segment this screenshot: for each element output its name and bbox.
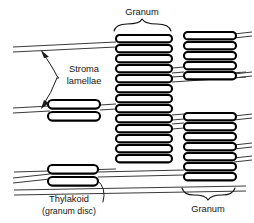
thylakoid-disc: [116, 35, 172, 42]
lamella-center-bottomright: [172, 114, 184, 120]
lamella-center-bottomright-2: [172, 123, 184, 129]
bottom-left-granum: [48, 165, 98, 186]
thylakoid-label-line2: (granum disc): [42, 206, 96, 216]
thylakoid-disc: [116, 65, 172, 72]
lamella-center-topright: [172, 67, 184, 73]
thylakoid-disc: [116, 55, 172, 62]
thylakoid-disc: [184, 173, 236, 180]
thylakoid-disc: [116, 75, 172, 82]
thylakoid-disc: [48, 100, 100, 109]
thylakoid-disc: [116, 155, 172, 162]
thylakoid-disc: [116, 135, 172, 142]
thylakoid-disc: [184, 52, 236, 59]
thylakoid-disc: [116, 145, 172, 152]
thylakoid-disc: [48, 112, 100, 121]
thylakoid-disc: [116, 45, 172, 52]
lamella-upper-left: [13, 42, 116, 52]
thylakoid-disc: [184, 153, 236, 160]
thylakoid-disc: [184, 143, 236, 150]
stroma-label-line2: lamellae: [67, 76, 102, 86]
lamella-bottom-left: [13, 174, 50, 183]
granum-top-label: Granum: [125, 7, 159, 17]
thylakoid-disc: [184, 123, 236, 130]
thylakoid-disc: [184, 72, 236, 79]
lamella-middle-left: [13, 106, 50, 113]
thylakoid-disc: [116, 125, 172, 132]
top-right-granum: [184, 32, 236, 79]
lamella-midleft-connector: [100, 104, 116, 110]
thylakoid-disc: [184, 42, 236, 49]
thylakoid-disc: [116, 105, 172, 112]
thylakoid-disc: [116, 85, 172, 92]
thylakoid-disc: [116, 115, 172, 122]
thylakoid-disc: [184, 32, 236, 39]
thylakoid-diagram: Granum Stroma lamellae Thylakoid (granum…: [0, 0, 254, 223]
bottom-right-granum: [184, 113, 236, 180]
thylakoid-disc: [184, 62, 236, 69]
granum-bottom-brace: [182, 188, 235, 200]
granum-top-brace: [114, 19, 171, 31]
thylakoid-disc: [184, 133, 236, 140]
thylakoid-disc: [184, 113, 236, 120]
stroma-label-line1: Stroma: [69, 64, 100, 74]
thylakoid-disc: [48, 177, 98, 186]
central-granum: [116, 35, 172, 162]
diagram-canvas: Granum Stroma lamellae Thylakoid (granum…: [0, 0, 254, 223]
lamella-bottomleft-connector: [98, 170, 184, 177]
thylakoid-disc: [184, 163, 236, 170]
thylakoid-disc: [48, 165, 98, 174]
thylakoid-disc: [116, 95, 172, 102]
thylakoid-label-line1: Thylakoid: [49, 194, 89, 204]
middle-left-granum: [48, 100, 100, 121]
granum-bottom-label: Granum: [191, 204, 225, 214]
